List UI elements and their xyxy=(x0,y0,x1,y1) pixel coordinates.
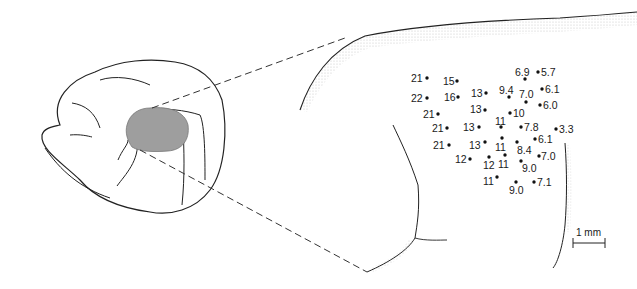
recording-site-label: 3.3 xyxy=(559,124,574,135)
recording-site-label: 10 xyxy=(513,108,525,119)
recording-site-dot xyxy=(538,103,541,106)
recording-site-label: 13 xyxy=(463,122,475,133)
recording-site-dot xyxy=(554,127,557,130)
recording-site-label: 7.0 xyxy=(519,89,534,100)
recording-site-dot xyxy=(477,125,480,128)
scale-bar-label: 1 mm xyxy=(576,228,601,238)
recording-site-label: 9.0 xyxy=(522,163,537,174)
recording-site-label: 22 xyxy=(411,93,423,104)
recording-site-label: 7.8 xyxy=(524,122,539,133)
recording-site-label: 21 xyxy=(411,73,423,84)
recording-site-dot xyxy=(445,126,448,129)
recording-site-label: 16 xyxy=(444,92,456,103)
recording-site-dot xyxy=(508,111,511,114)
recording-site-dot xyxy=(483,140,486,143)
recording-site-label: 11 xyxy=(483,176,494,187)
recording-site-label: 8.4 xyxy=(517,145,532,156)
recording-site-label: 5.7 xyxy=(541,67,556,78)
recording-site-dot xyxy=(524,100,527,103)
recording-site-label: 7.0 xyxy=(541,151,556,162)
recording-site-label: 15 xyxy=(443,76,455,87)
recording-site-dot xyxy=(536,70,539,73)
recording-region xyxy=(126,108,188,152)
recording-site-dot xyxy=(468,157,471,160)
whole-brain-drawing xyxy=(42,60,225,213)
scale-bar xyxy=(573,238,605,248)
recording-site-dot xyxy=(540,87,543,90)
recording-site-dot xyxy=(533,137,536,140)
recording-site-dot xyxy=(532,180,535,183)
recording-site-label: 13 xyxy=(469,140,481,151)
recording-site-label: 6.1 xyxy=(538,134,553,145)
recording-site-dot xyxy=(425,96,428,99)
recording-site-dot xyxy=(495,175,498,178)
figure-canvas: 21156.95.72216139.47.06.113106.021211311… xyxy=(0,0,637,289)
recording-site-label: 11 xyxy=(498,159,509,170)
recording-site-label: 21 xyxy=(423,109,435,120)
recording-site-dot xyxy=(447,143,450,146)
recording-site-label: 11 xyxy=(495,116,506,127)
recording-site-dot xyxy=(483,108,486,111)
sulcus-left xyxy=(367,125,419,272)
recording-site-label: 7.1 xyxy=(537,177,552,188)
recording-site-dot xyxy=(456,95,459,98)
recording-site-dot xyxy=(519,125,522,128)
recording-site-label: 9.0 xyxy=(509,185,524,196)
recording-site-label: 13 xyxy=(470,104,482,115)
recording-site-dot xyxy=(500,136,503,139)
recording-site-label: 6.9 xyxy=(515,67,530,78)
recording-site-dot xyxy=(425,76,428,79)
recording-site-label: 13 xyxy=(471,88,483,99)
recording-site-dot xyxy=(484,91,487,94)
recording-site-dot xyxy=(436,112,439,115)
recording-site-dot xyxy=(455,79,458,82)
recording-site-dot xyxy=(503,153,506,156)
recording-site-label: 6.0 xyxy=(543,100,558,111)
recording-site-label: 11 xyxy=(495,142,506,153)
recording-site-label: 12 xyxy=(483,160,495,171)
recording-site-label: 21 xyxy=(432,123,444,134)
recording-site-label: 21 xyxy=(433,140,445,151)
recording-site-label: 12 xyxy=(455,154,467,165)
recording-site-label: 6.1 xyxy=(545,84,560,95)
recording-site-label: 9.4 xyxy=(499,85,514,96)
